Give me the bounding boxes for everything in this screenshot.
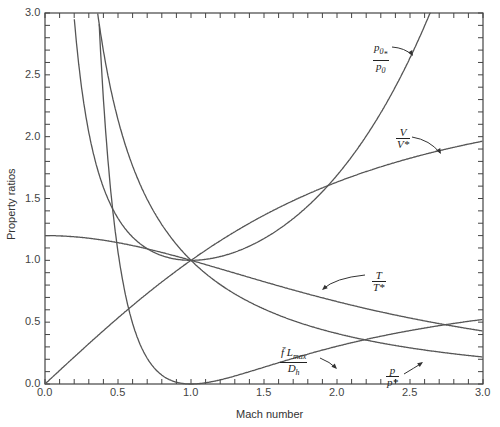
- x-tick-label: 2.0: [329, 386, 344, 398]
- curves: [45, 13, 482, 384]
- curve-v-v-: [45, 141, 482, 384]
- label-fanno-parameter: f̄ Lmax Dh: [280, 347, 307, 378]
- label-arrows: [320, 47, 441, 374]
- label-v-ratio: V V*: [396, 127, 410, 150]
- x-tick-label: 3.0: [475, 386, 490, 398]
- y-tick-label: 3.0: [25, 6, 40, 18]
- curve-p-p-: [98, 14, 483, 358]
- x-tick-label: 1.0: [183, 386, 198, 398]
- y-tick-label: 0.0: [25, 377, 40, 389]
- arrow-p0-ratio: [392, 47, 412, 55]
- curve-t-t-: [45, 236, 482, 331]
- y-tick-label: 1.5: [25, 192, 40, 204]
- y-tick-label: 1.0: [25, 253, 40, 265]
- x-tick-label: 2.5: [402, 386, 417, 398]
- plot-frame: [45, 13, 483, 384]
- y-tick-label: 2.0: [25, 130, 40, 142]
- arrow-p-ratio-head: [417, 362, 423, 367]
- y-axis-title: Property ratios: [5, 168, 17, 240]
- chart-canvas: [0, 0, 500, 427]
- label-p-ratio: p p*: [386, 365, 399, 388]
- y-tick-label: 0.5: [25, 315, 40, 327]
- label-p0-ratio: p0* p0: [373, 42, 389, 76]
- curve-f-lmax-dh: [99, 24, 482, 384]
- axes: [45, 13, 483, 384]
- y-tick-label: 2.5: [25, 68, 40, 80]
- x-tick-label: 1.5: [256, 386, 271, 398]
- arrow-v-ratio: [412, 137, 440, 153]
- arrow-t-ratio: [323, 275, 365, 289]
- label-t-ratio: T T*: [372, 270, 386, 293]
- x-tick-label: 0.5: [110, 386, 125, 398]
- x-axis-title: Mach number: [236, 408, 303, 420]
